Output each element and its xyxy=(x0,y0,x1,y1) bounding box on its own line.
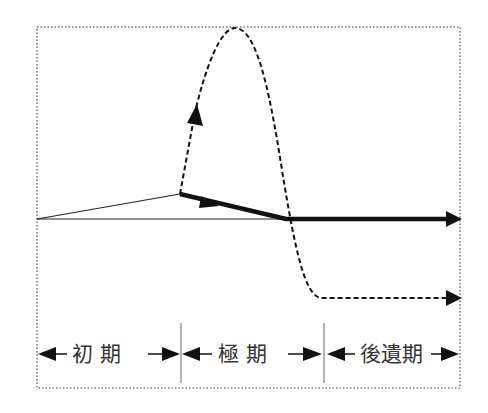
mild-course-line xyxy=(180,194,446,219)
phase-diagram: 初 期 極 期 後遺期 xyxy=(0,0,488,413)
arrowhead-icon xyxy=(446,290,462,306)
initial-rise-line xyxy=(37,194,180,219)
phase-label-initial: 初 期 xyxy=(72,342,121,366)
severe-course-line xyxy=(180,28,446,298)
phase-label-sequelae: 後遺期 xyxy=(360,342,423,366)
phase-label-peak: 極 期 xyxy=(218,342,267,366)
arrowhead-icon xyxy=(187,104,203,126)
